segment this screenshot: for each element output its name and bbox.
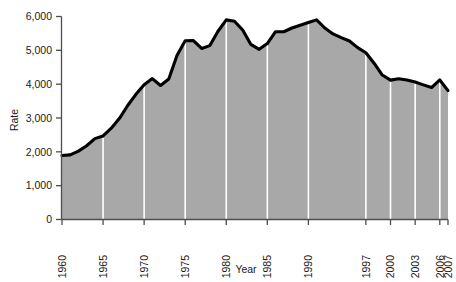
y-axis-ticks <box>56 17 62 220</box>
y-tick-label: 3,000 <box>26 112 52 124</box>
chart-container: Rate Year 01,0002,0003,0004,0005,0006,00… <box>0 0 456 282</box>
plot-area <box>62 20 448 220</box>
y-tick-label: 5,000 <box>26 44 52 56</box>
x-tick-label: 2000 <box>384 255 396 279</box>
x-axis-ticks <box>62 220 448 226</box>
y-tick-label: 2,000 <box>26 146 52 158</box>
x-tick-label: 1965 <box>97 255 109 279</box>
y-tick-label: 4,000 <box>26 78 52 90</box>
x-tick-label: 2003 <box>409 255 421 279</box>
x-tick-label: 1970 <box>138 255 150 279</box>
x-tick-label: 1960 <box>56 255 68 279</box>
x-tick-label: 1985 <box>261 255 273 279</box>
y-axis-title: Rate <box>8 109 20 131</box>
x-tick-label: 1997 <box>360 255 372 279</box>
x-tick-label: 1990 <box>302 255 314 279</box>
x-axis-title: Year <box>235 263 257 275</box>
y-axis <box>56 17 62 220</box>
x-axis <box>62 220 449 226</box>
area-chart-svg: Rate Year 01,0002,0003,0004,0005,0006,00… <box>0 0 456 282</box>
y-tick-label: 6,000 <box>26 10 52 22</box>
y-tick-label: 1,000 <box>26 179 52 191</box>
x-tick-label: 1975 <box>179 255 191 279</box>
x-tick-label: 1980 <box>220 255 232 279</box>
y-tick-label: 0 <box>46 213 52 225</box>
x-tick-label: 2007 <box>442 255 454 279</box>
